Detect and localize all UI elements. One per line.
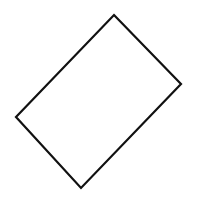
diagram-canvas <box>0 0 197 202</box>
